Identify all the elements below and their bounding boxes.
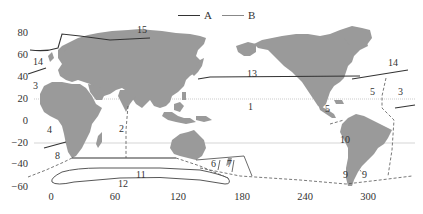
land-indonesia (162, 112, 196, 124)
land-india (118, 90, 136, 112)
region-label-12: 12 (118, 179, 128, 189)
x-tick-300: 300 (360, 192, 376, 203)
y-tick-0: 0 (0, 116, 28, 127)
region-label-7: 7 (227, 159, 232, 169)
land-newguinea (196, 116, 212, 122)
legend-line-a-icon (178, 15, 200, 16)
x-tick-180: 180 (234, 192, 250, 203)
land-caribbean (334, 100, 344, 104)
region-label-4: 4 (47, 125, 52, 135)
y-tick-40: 40 (0, 72, 28, 83)
line-a-east-tropic (395, 105, 415, 108)
landmasses (40, 26, 392, 186)
legend-item-b: B (222, 9, 255, 21)
x-tick-120: 120 (170, 192, 186, 203)
region-label-2: 2 (119, 124, 124, 134)
region-label-1: 1 (248, 102, 253, 112)
line-a-14-west (28, 68, 46, 74)
y-tick-minus60: −60 (0, 182, 28, 193)
region-label-10: 10 (340, 135, 350, 145)
region-label-11: 11 (136, 170, 146, 180)
world-map (0, 0, 423, 214)
line-b-southern (200, 168, 412, 184)
region-label-8: 8 (55, 151, 60, 161)
land-alaska (236, 42, 256, 56)
line-b-pacific-sa (330, 120, 344, 124)
line-b-indian (126, 106, 128, 158)
region-label-6: 6 (211, 159, 216, 169)
x-tick-60: 60 (110, 192, 121, 203)
region-label-9-west: 9 (343, 170, 348, 180)
land-australia (170, 130, 206, 160)
region-label-9-east: 9 (362, 170, 367, 180)
region-label-5-east: 5 (370, 87, 375, 97)
x-tick-240: 240 (297, 192, 313, 203)
land-madagascar (96, 132, 102, 148)
region-label-15: 15 (137, 25, 147, 35)
legend-label-a: A (204, 9, 212, 21)
y-tick-minus20: −20 (0, 138, 28, 149)
y-tick-minus40: −40 (0, 159, 28, 170)
y-tick-20: 20 (0, 94, 28, 105)
nz-region-lines (196, 156, 252, 176)
region-label-13: 13 (247, 69, 257, 79)
legend-line-b-icon (222, 15, 244, 16)
region-label-14-west: 14 (33, 57, 43, 67)
land-britain (48, 52, 54, 62)
region-label-3-west: 3 (33, 81, 38, 91)
region-label-14-east: 14 (388, 58, 398, 68)
land-philippines (182, 92, 186, 100)
region-label-5-west: 5 (325, 104, 330, 114)
x-tick-0: 0 (48, 192, 53, 203)
line-b-west-south (28, 158, 72, 177)
legend-label-b: B (248, 9, 255, 21)
region-label-3-east: 3 (398, 87, 403, 97)
legend: A B (0, 9, 423, 23)
y-tick-60: 60 (0, 50, 28, 61)
land-borneo (174, 102, 184, 112)
line-a-14-east (352, 70, 408, 79)
legend-item-a: A (178, 9, 212, 21)
y-tick-80: 80 (0, 28, 28, 39)
